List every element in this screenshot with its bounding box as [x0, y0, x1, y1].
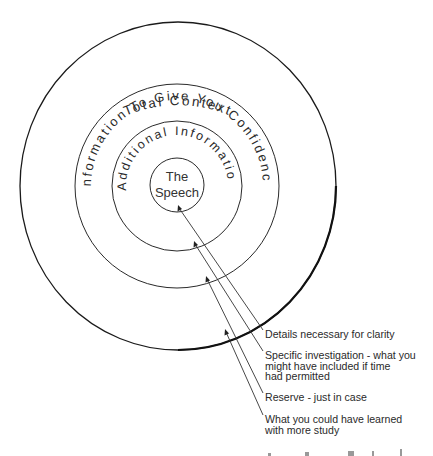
leader-line-total: [226, 332, 263, 415]
leader-additional: [194, 241, 264, 351]
annotation-text: with more study: [264, 424, 340, 436]
center-label-line-2: Speech: [155, 185, 199, 200]
leader-confidence: [206, 276, 264, 393]
arrowhead-icon: [178, 205, 183, 212]
annotation-text: had permitted: [265, 370, 330, 382]
cropped-text-fragment: [268, 449, 402, 456]
ring-total-shadow: [178, 186, 336, 350]
annotation-text: Details necessary for clarity: [265, 328, 395, 340]
center-label-line-1: The: [166, 169, 188, 184]
annotation-total: What you could have learned with more st…: [264, 413, 402, 436]
annotation-confidence: Reserve - just in case: [265, 391, 367, 403]
annotation-speech: Details necessary for clarity: [265, 328, 395, 340]
leader-line-confidence: [207, 279, 263, 393]
leader-line-speech: [179, 208, 263, 330]
leader-speech: [178, 205, 264, 330]
annotation-text: Reserve - just in case: [265, 391, 367, 403]
annotation-additional: Specific investigation - what you might …: [265, 349, 416, 382]
arrowhead-icon: [194, 241, 199, 248]
leader-line-additional: [195, 244, 263, 351]
concentric-diagram: Total Context Information To Give You Co…: [0, 0, 433, 456]
